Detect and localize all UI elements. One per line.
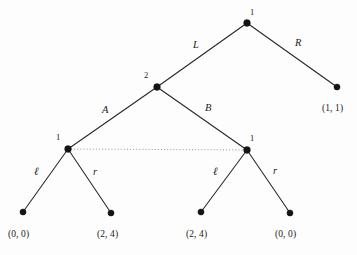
payoff-label-tLr: (2, 4) [97, 230, 118, 240]
edges-group [23, 23, 337, 213]
tree-edge-l [201, 150, 247, 212]
terminal-node-tR [334, 84, 340, 90]
tree-edge-L [157, 23, 247, 87]
payoff-label-tLl: (0, 0) [8, 230, 29, 240]
nodes-group [20, 20, 340, 216]
player-label-n1R: 1 [250, 134, 254, 143]
terminal-node-tLr [108, 210, 114, 216]
tree-edge-r [247, 150, 290, 213]
tree-edge-l [23, 149, 68, 212]
action-label-e-root-R: R [295, 38, 301, 49]
action-label-e-n2-A: A [102, 105, 108, 116]
decision-node-n1L [65, 146, 72, 153]
decision-node-n2 [154, 84, 161, 91]
payoff-label-tRr: (0, 0) [275, 230, 296, 240]
action-label-e-n1R-l: ℓ [213, 166, 218, 177]
decision-node-root [244, 20, 251, 27]
tree-edge-R [247, 23, 337, 87]
decision-node-n1R [244, 147, 251, 154]
game-tree-diagram: 1211LRABℓrℓr(1, 1)(0, 0)(2, 4)(2, 4)(0, … [0, 0, 357, 255]
terminal-node-tRl [198, 209, 204, 215]
action-label-e-n1L-r: r [93, 167, 97, 178]
information-set-group [68, 149, 247, 150]
tree-edge-r [68, 149, 111, 213]
action-label-e-n2-B: B [205, 103, 211, 114]
player-label-n1L: 1 [56, 133, 60, 142]
action-label-e-n1L-l: ℓ [34, 166, 39, 177]
action-label-e-root-L: L [193, 40, 199, 51]
player-label-n2: 2 [144, 71, 148, 80]
terminal-node-tRr [287, 210, 293, 216]
game-tree-canvas [0, 0, 357, 255]
tree-edge-B [157, 87, 247, 150]
payoff-label-tRl: (2, 4) [186, 230, 207, 240]
information-set-line [68, 149, 247, 150]
terminal-node-tLl [20, 209, 26, 215]
action-label-e-n1R-r: r [273, 166, 277, 177]
payoff-label-tR: (1, 1) [322, 104, 343, 114]
tree-edge-A [68, 87, 157, 149]
player-label-root: 1 [250, 8, 254, 17]
